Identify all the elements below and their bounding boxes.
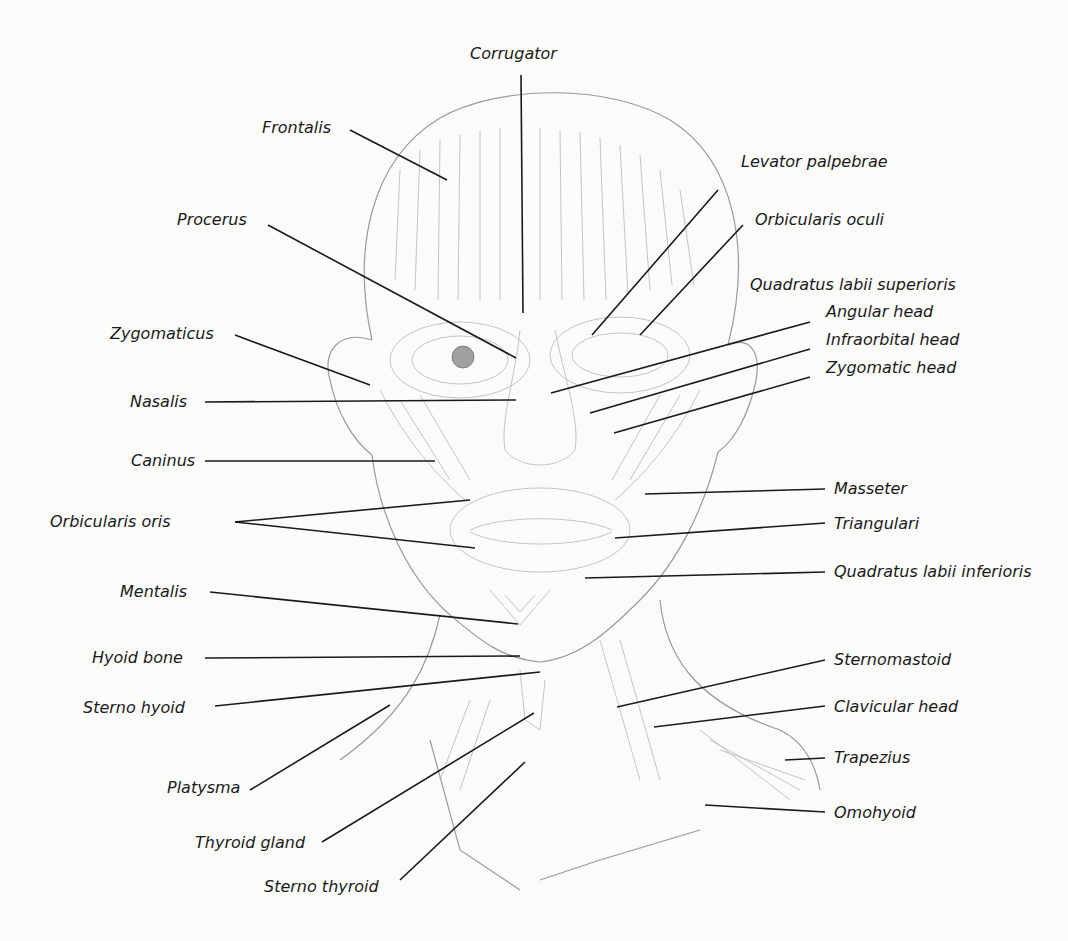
label-levator-palpebrae: Levator palpebrae <box>741 152 888 172</box>
leader-lines <box>205 75 825 880</box>
label-procerus: Procerus <box>177 210 247 230</box>
label-clavicular-head: Clavicular head <box>834 697 958 717</box>
label-sternomastoid: Sternomastoid <box>834 650 951 670</box>
label-caninus: Caninus <box>131 451 195 471</box>
label-zygomatic-head: Zygomatic head <box>826 358 956 378</box>
anatomy-diagram: Corrugator Frontalis Levator palpebrae P… <box>0 0 1068 941</box>
label-orbicularis-oculi: Orbicularis oculi <box>755 210 884 230</box>
label-hyoid-bone: Hyoid bone <box>92 648 183 668</box>
label-triangulari: Triangulari <box>834 514 919 534</box>
label-angular-head: Angular head <box>826 302 933 322</box>
label-mentalis: Mentalis <box>120 582 187 602</box>
label-masseter: Masseter <box>834 479 907 499</box>
label-nasalis: Nasalis <box>130 392 187 412</box>
label-frontalis: Frontalis <box>262 118 331 138</box>
label-quadratus-labii-superioris: Quadratus labii superioris <box>750 275 956 295</box>
muscle-hatching <box>380 128 805 800</box>
label-zygomaticus: Zygomaticus <box>110 324 214 344</box>
label-sterno-thyroid: Sterno thyroid <box>264 877 379 897</box>
label-infraorbital-head: Infraorbital head <box>826 330 959 350</box>
label-quadratus-labii-inferioris: Quadratus labii inferioris <box>834 562 1032 582</box>
label-platysma: Platysma <box>167 778 240 798</box>
label-thyroid-gland: Thyroid gland <box>195 833 305 853</box>
label-corrugator: Corrugator <box>470 44 557 64</box>
label-orbicularis-oris: Orbicularis oris <box>50 512 171 532</box>
label-omohyoid: Omohyoid <box>834 803 916 823</box>
label-trapezius: Trapezius <box>834 748 910 768</box>
label-sterno-hyoid: Sterno hyoid <box>83 698 185 718</box>
